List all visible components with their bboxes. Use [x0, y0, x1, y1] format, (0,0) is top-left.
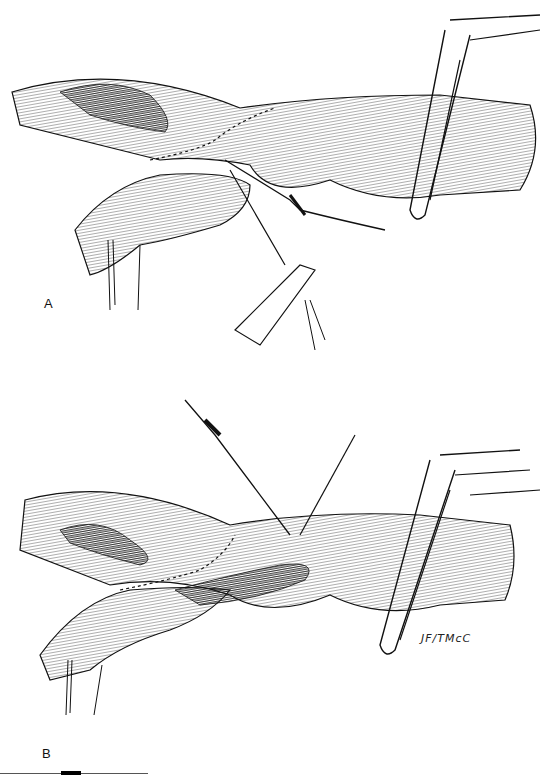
vessel-anastomosis-b-drawing: [0, 375, 549, 715]
vessel-anastomosis-a-drawing: [0, 0, 549, 360]
footer-rule-marker: [61, 771, 81, 775]
panel-b-illustration: [0, 375, 549, 715]
panel-label-a: A: [44, 296, 53, 311]
panel-a-illustration: A: [0, 0, 549, 360]
artist-signature: JF/TMcC: [421, 632, 471, 645]
panel-label-b: B: [42, 746, 51, 761]
